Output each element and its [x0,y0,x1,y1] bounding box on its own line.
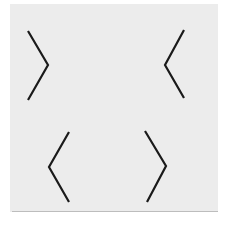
top-left-chevron-right-icon [28,31,48,100]
bottom-right-chevron-right-icon [145,131,166,202]
top-right-chevron-left-icon [165,30,184,98]
bottom-left-chevron-left-icon [49,132,69,202]
chevron-figure [0,0,227,227]
